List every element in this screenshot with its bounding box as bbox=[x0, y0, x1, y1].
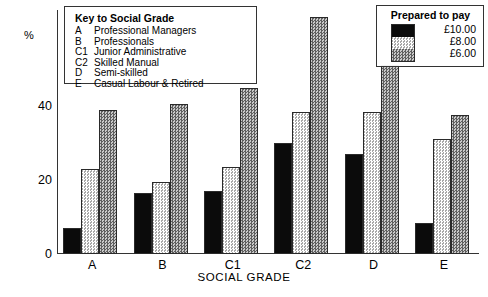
key-row-description: Professional Managers bbox=[94, 26, 196, 37]
bar-d-600 bbox=[381, 65, 399, 254]
bar-a-600 bbox=[99, 110, 117, 254]
bar-d-800 bbox=[363, 112, 381, 254]
legend-title: Prepared to pay bbox=[383, 9, 478, 21]
x-tick-label-a: A bbox=[88, 258, 96, 272]
key-to-social-grade-box: Key to Social Grade AProfessional Manage… bbox=[64, 6, 257, 84]
x-tick-label-d: D bbox=[369, 258, 378, 272]
key-row-code: E bbox=[75, 79, 94, 90]
key-row-code: A bbox=[75, 26, 94, 37]
legend-box: Prepared to pay £10.00£8.00£6.00 bbox=[376, 5, 484, 67]
bar-c2-800 bbox=[292, 112, 310, 254]
key-box-title: Key to Social Grade bbox=[75, 12, 250, 24]
bar-c2-1000 bbox=[274, 143, 292, 254]
y-tick-label: 40 bbox=[6, 99, 52, 113]
bar-group-c2 bbox=[274, 10, 328, 254]
bar-chart: % 02040 ABC1C2DE SOCIAL GRADE Key to Soc… bbox=[0, 0, 488, 297]
x-axis-title: SOCIAL GRADE bbox=[0, 271, 488, 283]
key-box-rows: AProfessional ManagersBProfessionalsC1Ju… bbox=[73, 26, 250, 90]
legend-swatch-solid-black bbox=[392, 25, 414, 37]
key-row-description: Casual Labour & Retired bbox=[94, 79, 204, 90]
legend-swatch-light-dotted bbox=[392, 37, 414, 49]
bar-c1-1000 bbox=[204, 191, 222, 254]
legend-swatch-column bbox=[391, 24, 415, 62]
bar-e-800 bbox=[433, 139, 451, 254]
legend-label: £6.00 bbox=[415, 47, 476, 59]
legend-label: £10.00 bbox=[415, 23, 476, 35]
bar-c2-600 bbox=[310, 17, 328, 254]
y-axis-ticks: 02040 bbox=[0, 0, 52, 297]
bar-a-800 bbox=[81, 169, 99, 254]
bar-c1-600 bbox=[240, 88, 258, 254]
bar-b-1000 bbox=[134, 193, 152, 254]
bar-e-1000 bbox=[415, 223, 433, 254]
x-tick-label-c1: C1 bbox=[225, 258, 241, 272]
bar-c1-800 bbox=[222, 167, 240, 254]
key-row-e: ECasual Labour & Retired bbox=[75, 79, 250, 90]
bar-d-1000 bbox=[345, 154, 363, 254]
legend-body: £10.00£8.00£6.00 bbox=[383, 23, 478, 62]
bar-b-800 bbox=[152, 182, 170, 254]
key-row-a: AProfessional Managers bbox=[75, 26, 250, 37]
bar-a-1000 bbox=[63, 228, 81, 254]
y-tick-label: 0 bbox=[6, 247, 52, 261]
legend-label: £8.00 bbox=[415, 35, 476, 47]
x-tick-label-c2: C2 bbox=[295, 258, 311, 272]
legend-swatch-dark-hatched bbox=[392, 49, 414, 61]
x-tick-label-e: E bbox=[440, 258, 448, 272]
bar-e-600 bbox=[451, 115, 469, 254]
legend-label-column: £10.00£8.00£6.00 bbox=[415, 23, 478, 59]
x-tick-label-b: B bbox=[158, 258, 166, 272]
y-tick-label: 20 bbox=[6, 173, 52, 187]
bar-b-600 bbox=[170, 104, 188, 254]
